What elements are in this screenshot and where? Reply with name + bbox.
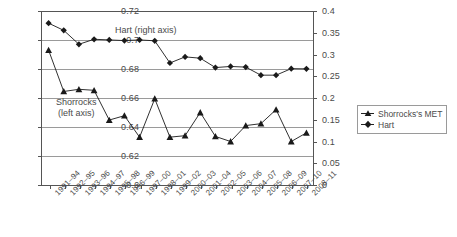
annotation-shorrocks-line2: (left axis): [56, 108, 97, 119]
left-axis-tick-label: 0.62: [121, 151, 139, 161]
annotation-shorrocks: Shorrocks (left axis): [56, 97, 97, 119]
axis-tick: [313, 142, 317, 143]
x-axis-tick-label: 2002–05: [219, 191, 225, 197]
x-axis-tick-label: 2005–08: [265, 191, 271, 197]
gridline: [42, 127, 313, 128]
axis-tick: [313, 76, 317, 77]
chart-container: 0.60.620.640.660.680.70.72 00.050.10.150…: [0, 0, 457, 237]
annotation-shorrocks-line1: Shorrocks: [56, 97, 97, 108]
axis-tick: [313, 120, 317, 121]
right-axis-tick-label: 0.2: [322, 93, 335, 103]
x-axis-tick-label: 1993–96: [83, 191, 89, 197]
legend-item-shorrocks[interactable]: Shorrocks's MET: [361, 108, 442, 119]
axis-tick: [38, 185, 42, 186]
gridline: [42, 40, 313, 41]
gridline: [42, 11, 313, 12]
x-axis-tick-label: 2001–04: [204, 191, 210, 197]
x-axis-tick-label: 1999–02: [174, 191, 180, 197]
x-axis-tick-label: 2003–06: [235, 191, 241, 197]
x-axis-tick-label: 2008–11: [310, 191, 316, 197]
right-axis-tick-label: 0.3: [322, 50, 335, 60]
x-axis-tick-label: 1996–99: [128, 191, 134, 197]
x-axis-tick-label: 2000–03: [189, 191, 195, 197]
x-axis-tick-label: 1991–94: [53, 191, 59, 197]
legend-item-hart[interactable]: Hart: [361, 119, 442, 130]
left-axis-tick-label: 0.64: [121, 122, 139, 132]
left-axis-tick-label: 0.68: [121, 64, 139, 74]
legend-label-hart: Hart: [378, 120, 394, 130]
annotation-hart: Hart (right axis): [115, 25, 177, 36]
axis-tick: [38, 11, 42, 12]
left-axis-tick-label: 0.66: [121, 93, 139, 103]
gridline: [42, 156, 313, 157]
x-axis-tick-label: 2007–10: [295, 191, 301, 197]
axis-tick: [38, 156, 42, 157]
right-axis-tick-label: 0.35: [322, 28, 340, 38]
x-axis-tick-label: 1994–97: [98, 191, 104, 197]
axis-tick: [38, 127, 42, 128]
axis-tick: [38, 98, 42, 99]
axis-tick: [313, 163, 317, 164]
triangle-marker-icon: [361, 109, 374, 118]
legend-label-shorrocks: Shorrocks's MET: [378, 109, 442, 119]
right-axis-tick-label: 0.1: [322, 137, 335, 147]
axis-tick: [50, 185, 51, 189]
right-axis-tick-label: 0.4: [322, 6, 335, 16]
left-axis-tick-label: 0.7: [126, 35, 139, 45]
right-axis-tick-label: 0.15: [322, 115, 340, 125]
x-axis-tick-label: 1998–01: [159, 191, 165, 197]
x-axis-tick-label: 2006–09: [280, 191, 286, 197]
x-axis-tick-label: 1995–98: [113, 191, 119, 197]
axis-tick: [38, 40, 42, 41]
right-axis-tick-label: 0.25: [322, 71, 340, 81]
chart-legend: Shorrocks's MET Hart: [357, 105, 447, 134]
x-axis-tick-label: 2004–07: [250, 191, 256, 197]
axis-tick: [313, 33, 317, 34]
x-axis-tick-label: 1992–95: [68, 191, 74, 197]
x-axis-tick-label: 1997–00: [144, 191, 150, 197]
axis-tick: [313, 98, 317, 99]
gridline: [42, 69, 313, 70]
axis-tick: [313, 55, 317, 56]
left-axis-tick-label: 0.72: [121, 6, 139, 16]
axis-tick: [38, 69, 42, 70]
diamond-marker-icon: [361, 120, 374, 129]
axis-tick: [313, 11, 317, 12]
right-axis-tick-label: 0.05: [322, 158, 340, 168]
